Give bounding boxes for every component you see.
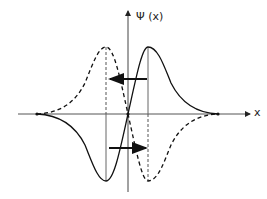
origin-node xyxy=(126,112,129,115)
left-endpoint xyxy=(35,112,38,115)
x-axis-label: x xyxy=(254,107,261,118)
y-axis-label: Ψ (x) xyxy=(136,11,163,22)
right-endpoint xyxy=(216,112,219,115)
wavefunction-diagram xyxy=(0,0,267,199)
